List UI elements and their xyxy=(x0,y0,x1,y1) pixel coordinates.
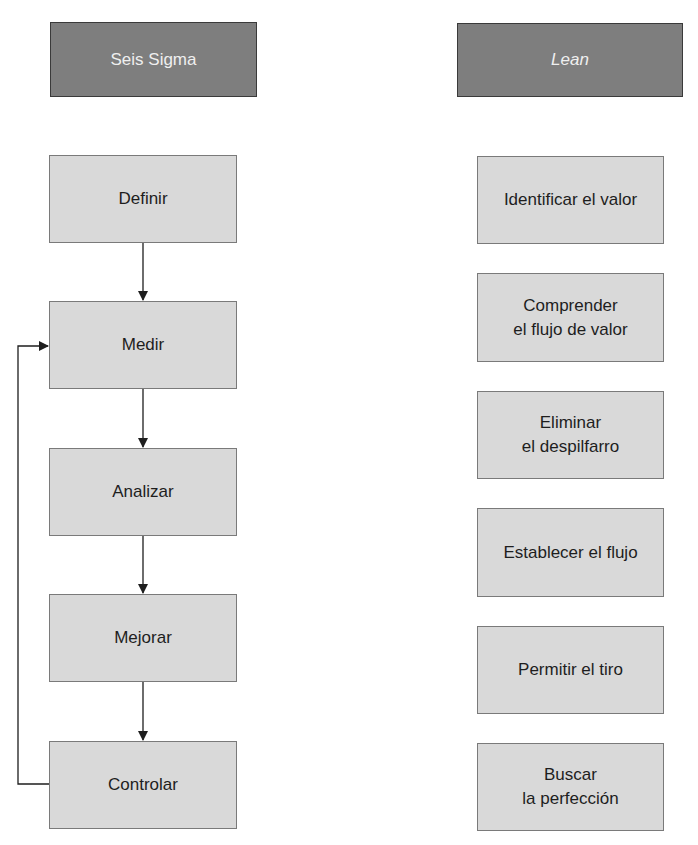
feedback-loop-arrow-icon xyxy=(18,346,49,784)
connector-layer xyxy=(0,0,698,845)
